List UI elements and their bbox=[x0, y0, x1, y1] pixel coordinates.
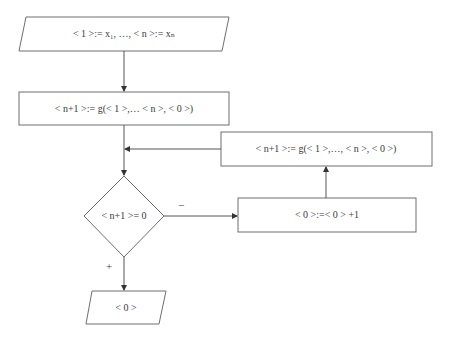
input-label: < 1 >:= x₁, …, < n >:= xₙ bbox=[73, 29, 175, 39]
no-branch-label: − bbox=[178, 200, 184, 211]
flowchart-shapes bbox=[0, 0, 453, 343]
yes-branch-label: + bbox=[106, 261, 112, 272]
compute-label: < n+1 >:= g(< 1 >,… < n >, < 0 >) bbox=[55, 104, 193, 114]
decision-label: < n+1 >= 0 bbox=[101, 211, 146, 221]
output-label: < 0 > bbox=[115, 303, 136, 313]
recompute-label: < n+1 >:= g(< 1 >,…, < n >, < 0 >) bbox=[256, 144, 397, 154]
increment-label: < 0 >:=< 0 > +1 bbox=[295, 210, 359, 220]
flowchart-canvas: < 1 >:= x₁, …, < n >:= xₙ < n+1 >:= g(< … bbox=[0, 0, 453, 343]
